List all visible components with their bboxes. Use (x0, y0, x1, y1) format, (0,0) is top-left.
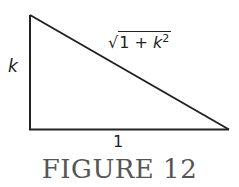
radical-sign: √ (108, 33, 118, 52)
figure-caption: FIGURE 12 (0, 156, 239, 182)
radicand: 1 + k2 (118, 31, 171, 52)
vertical-side-label: k (8, 58, 18, 75)
horizontal-side-label: 1 (113, 134, 123, 150)
hypotenuse-label: √1 + k2 (108, 33, 171, 51)
